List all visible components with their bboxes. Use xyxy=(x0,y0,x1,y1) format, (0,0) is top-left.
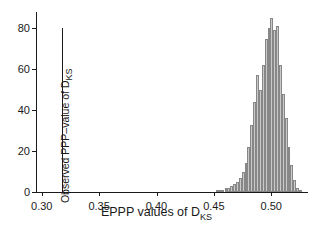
y-tick-label: 80 xyxy=(18,22,30,34)
histogram-bar xyxy=(299,190,302,192)
histogram-bars xyxy=(36,12,308,192)
x-tick-mark xyxy=(214,192,215,196)
x-tick-mark xyxy=(271,192,272,196)
x-axis-title: EPPP values of DKS xyxy=(0,205,313,222)
y-tick-label: 60 xyxy=(18,63,30,75)
x-tick-mark xyxy=(99,192,100,196)
x-tick-mark xyxy=(42,192,43,196)
y-tick-label: 0 xyxy=(24,186,30,198)
y-tick-label: 40 xyxy=(18,104,30,116)
histogram-figure: 020406080 0.300.350.400.450.50 Observed … xyxy=(0,0,313,242)
plot-area: 020406080 0.300.350.400.450.50 Observed … xyxy=(36,12,308,192)
y-tick-mark xyxy=(32,192,36,193)
x-tick-mark xyxy=(157,192,158,196)
observed-ppp-label: Observed PPP–value of DKS xyxy=(59,69,74,204)
y-tick-label: 20 xyxy=(18,145,30,157)
x-axis-spine xyxy=(36,192,308,193)
